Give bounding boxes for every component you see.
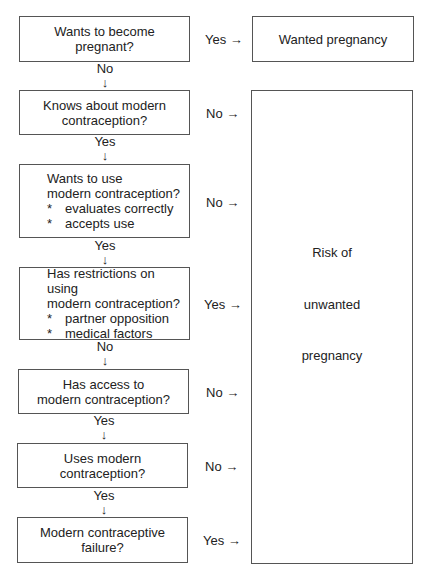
step-text: Modern contraceptive bbox=[40, 525, 165, 540]
risk-text-line-3: pregnancy bbox=[252, 348, 412, 363]
step-text: Wants to use bbox=[47, 171, 189, 186]
step-text: Has access to bbox=[63, 377, 145, 392]
no-arrow-label: No → bbox=[206, 385, 239, 400]
connector-no: No ↓ bbox=[85, 340, 125, 368]
connector-label: No bbox=[85, 62, 125, 76]
step-wants-pregnant: Wants to become pregnant? bbox=[19, 16, 190, 62]
step-wants-use: Wants to use modern contraception? *eval… bbox=[19, 164, 190, 238]
connector-label: Yes bbox=[84, 414, 124, 428]
step-text: Wants to become bbox=[54, 24, 155, 39]
step-contraceptive-failure: Modern contraceptive failure? bbox=[17, 517, 188, 563]
bullet-icon: * bbox=[47, 201, 65, 216]
down-arrow-icon: ↓ bbox=[85, 354, 125, 368]
outcome-text: Wanted pregnancy bbox=[279, 32, 388, 47]
no-arrow-label: No → bbox=[206, 106, 239, 121]
connector-yes: Yes ↓ bbox=[85, 135, 125, 163]
step-text: Uses modern bbox=[64, 451, 141, 466]
yes-arrow-label: Yes → bbox=[204, 297, 242, 312]
bullet-text: accepts use bbox=[65, 216, 134, 231]
outcome-wanted-pregnancy: Wanted pregnancy bbox=[252, 16, 414, 62]
step-text: modern contraception? bbox=[47, 296, 189, 311]
risk-text-line-1: Risk of bbox=[252, 245, 412, 260]
down-arrow-icon: ↓ bbox=[84, 503, 124, 517]
connector-yes: Yes ↓ bbox=[85, 239, 125, 267]
connector-label: Yes bbox=[85, 239, 125, 253]
bullet-icon: * bbox=[47, 216, 65, 231]
connector-label: Yes bbox=[84, 489, 124, 503]
risk-text-line-2: unwanted bbox=[252, 297, 412, 312]
bullet-icon: * bbox=[47, 311, 65, 326]
yes-arrow-label: Yes → bbox=[205, 32, 243, 47]
step-has-access: Has access to modern contraception? bbox=[18, 369, 189, 414]
no-arrow-label: No → bbox=[205, 459, 238, 474]
bullet-item: *accepts use bbox=[47, 216, 189, 231]
bullet-text: partner opposition bbox=[65, 311, 169, 326]
down-arrow-icon: ↓ bbox=[85, 149, 125, 163]
bullet-item: *medical factors bbox=[47, 326, 189, 341]
step-has-restrictions: Has restrictions on using modern contrac… bbox=[19, 267, 190, 340]
connector-yes: Yes ↓ bbox=[84, 489, 124, 517]
connector-label: No bbox=[85, 340, 125, 354]
bullet-item: *evaluates correctly bbox=[47, 201, 189, 216]
connector-label: Yes bbox=[85, 135, 125, 149]
step-text: contraception? bbox=[60, 466, 145, 481]
step-text: contraception? bbox=[62, 113, 147, 128]
step-text: modern contraception? bbox=[47, 186, 189, 201]
outcome-risk-unwanted-pregnancy bbox=[251, 90, 413, 564]
step-uses-contraception: Uses modern contraception? bbox=[17, 443, 188, 488]
bullet-item: *partner opposition bbox=[47, 311, 189, 326]
step-text: pregnant? bbox=[75, 39, 134, 54]
bullet-text: evaluates correctly bbox=[65, 201, 173, 216]
yes-arrow-label: Yes → bbox=[203, 533, 241, 548]
step-knows-contraception: Knows about modern contraception? bbox=[19, 90, 190, 135]
down-arrow-icon: ↓ bbox=[85, 76, 125, 90]
connector-no: No ↓ bbox=[85, 62, 125, 90]
down-arrow-icon: ↓ bbox=[84, 428, 124, 442]
step-text: modern contraception? bbox=[37, 392, 170, 407]
bullet-icon: * bbox=[47, 326, 65, 341]
down-arrow-icon: ↓ bbox=[85, 253, 125, 267]
step-text: Knows about modern bbox=[43, 98, 166, 113]
no-arrow-label: No → bbox=[206, 195, 239, 210]
step-text: failure? bbox=[81, 540, 124, 555]
step-text: Has restrictions on using bbox=[47, 266, 189, 296]
connector-yes: Yes ↓ bbox=[84, 414, 124, 442]
